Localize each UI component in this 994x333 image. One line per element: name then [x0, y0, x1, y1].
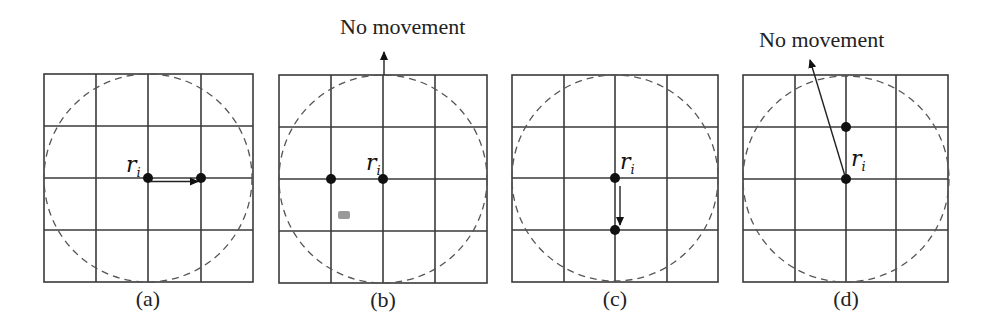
robot-label: ri	[126, 152, 141, 180]
panel-a: ri (a)	[44, 74, 253, 311]
caption-a: (a)	[136, 286, 160, 311]
caption-b: (b)	[370, 287, 396, 312]
caption-c: (c)	[603, 286, 627, 311]
panel-b: No movement ri (b)	[279, 14, 487, 312]
panel-d: No movement ri (d)	[743, 27, 949, 311]
neighbor-robot	[610, 225, 620, 235]
robot-ri	[610, 173, 620, 183]
smudge-mark	[338, 211, 350, 219]
no-movement-label: No movement	[759, 27, 884, 52]
neighbor-robot	[326, 174, 336, 184]
neighbor-robot	[841, 122, 851, 132]
caption-d: (d)	[833, 286, 859, 311]
robot-label: ri	[851, 146, 866, 174]
figure-canvas: ri (a) No movement ri (b)	[0, 0, 994, 333]
robot-label: ri	[366, 150, 381, 178]
robot-ri	[841, 174, 851, 184]
no-movement-arrow-icon	[810, 60, 845, 176]
robot-label: ri	[620, 149, 635, 177]
no-movement-label: No movement	[340, 14, 465, 39]
panel-c: ri (c)	[512, 75, 718, 311]
